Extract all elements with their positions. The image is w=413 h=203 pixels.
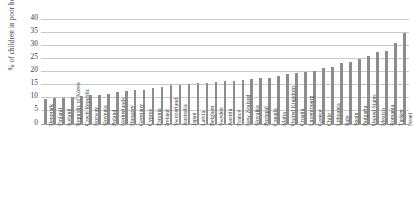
x-label-slot: Austria	[220, 126, 229, 203]
y-tick-30: 30	[16, 40, 38, 48]
x-label-slot: Ireland	[158, 126, 167, 203]
x-label-slot: Chile	[319, 126, 328, 203]
x-label-slot: Slovenia	[95, 126, 104, 203]
x-label-slot: Romania	[382, 126, 391, 203]
x-axis-label: Slovenia	[102, 105, 108, 126]
x-axis-label: Ireland	[164, 109, 170, 126]
y-tick-25: 25	[16, 53, 38, 61]
x-label-slot: Turkey	[391, 126, 400, 203]
x-label-slot: Spain	[346, 126, 355, 203]
x-axis-label: Cyprus	[147, 109, 153, 126]
x-axis-label: Netherlands	[120, 98, 126, 126]
x-axis-label: Chile	[326, 113, 332, 126]
x-axis-label: France	[236, 110, 242, 126]
bar	[170, 85, 173, 124]
x-label-slot: Switzerland	[167, 126, 176, 203]
y-tick-40: 40	[16, 14, 38, 22]
x-axis-label: Bulgaria	[362, 106, 368, 126]
y-tick-20: 20	[16, 66, 38, 74]
x-axis-label: Poland	[111, 110, 117, 126]
x-axis-label: Estonia	[156, 108, 162, 126]
x-label-slot: France	[229, 126, 238, 203]
y-tick-10: 10	[16, 92, 38, 100]
x-axis-label: Mexico	[380, 108, 386, 126]
x-axis-label: Denmark	[48, 104, 54, 126]
x-axis-label: Croatia	[299, 109, 305, 126]
x-label-slot: Czech Republic	[77, 126, 86, 203]
bar	[44, 99, 47, 125]
x-axis-label: Romania	[389, 105, 395, 126]
x-axis-label: Slovakia	[254, 105, 260, 126]
bar-slot	[193, 20, 202, 125]
x-label-slot: Estonia	[149, 126, 158, 203]
x-label-slot: Malta	[274, 126, 283, 203]
x-label-slot: Australia	[176, 126, 185, 203]
x-label-slot: New Zealand	[238, 126, 247, 203]
x-axis-label: Luxembourg	[308, 96, 314, 126]
x-axis-label: United Kingdom	[290, 86, 296, 126]
y-axis-tick-labels: 0510152025303540	[16, 13, 38, 130]
x-label-slot: Germany	[131, 126, 140, 203]
y-tick-5: 5	[16, 105, 38, 113]
bar	[188, 84, 191, 125]
x-label-slot: Poland	[104, 126, 113, 203]
x-label-slot: Lithuania	[328, 126, 337, 203]
x-axis-label: Germany	[138, 104, 144, 126]
x-axis-label: Latvia	[200, 111, 206, 126]
x-axis-label: Sweden	[218, 107, 224, 126]
x-axis-label: Iceland	[66, 109, 72, 126]
x-axis-label: Belgium	[209, 106, 215, 126]
x-label-slot: Slovakia	[247, 126, 256, 203]
x-axis-label: Malta	[281, 112, 287, 126]
x-label-slot: Canada	[265, 126, 274, 203]
x-axis-label: Republic of Korea	[75, 82, 81, 126]
x-axis-label: Portugal	[263, 106, 269, 126]
x-axis-label: Norway	[93, 107, 99, 126]
bar-slot	[346, 20, 355, 125]
x-axis-label: Italy	[344, 115, 350, 126]
x-axis-label: Spain	[353, 113, 359, 126]
x-axis-label: Greece	[317, 109, 323, 126]
x-axis-label: Japan	[191, 113, 197, 126]
x-label-slot: Iceland	[59, 126, 68, 203]
x-label-slot: Cyprus	[140, 126, 149, 203]
x-label-slot: Netherlands	[113, 126, 122, 203]
x-label-slot: Bulgaria	[355, 126, 364, 203]
x-label-slot: Denmark	[41, 126, 50, 203]
x-label-slot: Portugal	[256, 126, 265, 203]
x-label-slot: Israel	[400, 126, 409, 203]
x-axis-label: Israel	[407, 113, 413, 126]
y-tick-35: 35	[16, 27, 38, 35]
x-label-slot: United Kingdom	[283, 126, 292, 203]
x-label-slot: Sweden	[211, 126, 220, 203]
x-axis-label: Australia	[182, 104, 188, 126]
x-label-slot: Mexico	[373, 126, 382, 203]
x-axis-label: Canada	[272, 108, 278, 126]
bar	[197, 83, 200, 124]
x-label-slot: Republic of Korea	[68, 126, 77, 203]
bar	[206, 83, 209, 125]
x-label-slot: Finland	[50, 126, 59, 203]
x-label-slot: Italy	[337, 126, 346, 203]
bar	[179, 85, 182, 125]
x-label-slot: Croatia	[292, 126, 301, 203]
x-label-slot: Belgium	[202, 126, 211, 203]
x-axis-label: Turkey	[398, 109, 404, 126]
x-axis-label: New Zealand	[245, 94, 251, 126]
x-label-slot: Luxembourg	[301, 126, 310, 203]
x-label-slot: Greece	[310, 126, 319, 203]
x-axis-label: Switzerland	[173, 98, 179, 126]
x-label-slot: Latvia	[193, 126, 202, 203]
x-axis-label: Austria	[227, 109, 233, 126]
x-label-slot: Japan	[185, 126, 194, 203]
y-tick-15: 15	[16, 79, 38, 87]
x-axis-label: Lithuania	[335, 103, 341, 126]
x-axis-label: Czech Republic	[84, 89, 90, 126]
x-axis-label: United States	[371, 94, 377, 126]
x-label-slot: Norway	[86, 126, 95, 203]
x-axis-label: Hungary	[129, 105, 135, 126]
x-axis-label: Finland	[57, 108, 63, 126]
x-axis-category-labels: DenmarkFinlandIcelandRepublic of KoreaCz…	[41, 126, 409, 203]
x-label-slot: Hungary	[122, 126, 131, 203]
